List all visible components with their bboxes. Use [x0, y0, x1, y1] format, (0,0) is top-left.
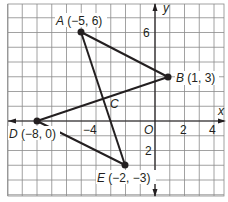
labels: A (−5, 6) B (1, 3) C D (−8, 0) E (−2, −3…: [8, 1, 225, 185]
label-B: B (1, 3): [176, 71, 215, 85]
label-D: D (−8, 0): [9, 127, 56, 141]
x-axis-arrow-left: [8, 119, 16, 124]
tick-label-x-2: 2: [180, 123, 187, 137]
x-axis-arrow-right: [218, 119, 226, 124]
origin-label: O: [144, 123, 153, 137]
label-A: A (−5, 6): [55, 14, 102, 28]
label-C: C: [110, 97, 119, 111]
x-axis-label: x: [217, 104, 225, 118]
y-axis-label: y: [162, 1, 170, 15]
label-E: E (−2, −3): [97, 171, 150, 185]
point-A: [78, 29, 85, 36]
tick-label-y-6: 6: [143, 26, 150, 40]
tick-label-x-4: 4: [209, 123, 216, 137]
coordinate-plane: A (−5, 6) B (1, 3) C D (−8, 0) E (−2, −3…: [0, 0, 228, 202]
point-E: [122, 162, 129, 169]
point-B: [165, 74, 172, 81]
tick-label-x-neg4: −4: [83, 123, 97, 137]
point-D: [34, 118, 41, 125]
segment-DB: [37, 77, 168, 121]
tick-label-y-neg2: 2: [145, 144, 152, 158]
